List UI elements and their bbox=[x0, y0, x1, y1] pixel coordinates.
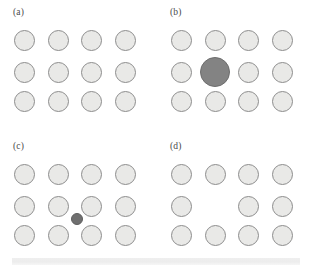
host-atom bbox=[238, 62, 259, 83]
panel-c: (c) bbox=[0, 134, 157, 268]
host-atom bbox=[115, 196, 136, 217]
host-atom bbox=[272, 30, 293, 51]
panel-a: (a) bbox=[0, 0, 157, 134]
host-atom bbox=[48, 225, 69, 246]
host-atom bbox=[14, 225, 35, 246]
host-atom bbox=[205, 164, 226, 185]
panel-d-label: (d) bbox=[170, 142, 182, 152]
host-atom bbox=[272, 91, 293, 112]
host-atom bbox=[205, 30, 226, 51]
host-atom bbox=[115, 164, 136, 185]
host-atom bbox=[14, 91, 35, 112]
panel-d: (d) bbox=[157, 134, 314, 268]
host-atom bbox=[81, 91, 102, 112]
panel-b: (b) bbox=[157, 0, 314, 134]
host-atom bbox=[81, 225, 102, 246]
host-atom bbox=[81, 196, 102, 217]
host-atom bbox=[115, 30, 136, 51]
host-atom bbox=[238, 164, 259, 185]
host-atom bbox=[171, 196, 192, 217]
host-atom bbox=[238, 30, 259, 51]
host-atom bbox=[171, 164, 192, 185]
host-atom bbox=[115, 91, 136, 112]
footer-band bbox=[12, 258, 300, 265]
host-atom bbox=[238, 196, 259, 217]
host-atom bbox=[48, 196, 69, 217]
host-atom bbox=[171, 62, 192, 83]
defect-figure: (a) (b) (c) (d) bbox=[0, 0, 314, 268]
host-atom bbox=[115, 62, 136, 83]
interstitial-atom bbox=[71, 213, 83, 225]
host-atom bbox=[81, 62, 102, 83]
host-atom bbox=[81, 164, 102, 185]
host-atom bbox=[14, 164, 35, 185]
host-atom bbox=[171, 30, 192, 51]
host-atom bbox=[48, 164, 69, 185]
host-atom bbox=[48, 30, 69, 51]
host-atom bbox=[205, 91, 226, 112]
host-atom bbox=[272, 196, 293, 217]
host-atom bbox=[272, 164, 293, 185]
host-atom bbox=[14, 196, 35, 217]
host-atom bbox=[14, 62, 35, 83]
host-atom bbox=[272, 225, 293, 246]
panel-b-label: (b) bbox=[170, 8, 182, 18]
panel-c-label: (c) bbox=[13, 142, 24, 152]
host-atom bbox=[238, 225, 259, 246]
host-atom bbox=[272, 62, 293, 83]
host-atom bbox=[14, 30, 35, 51]
host-atom bbox=[48, 91, 69, 112]
host-atom bbox=[171, 91, 192, 112]
host-atom bbox=[171, 225, 192, 246]
host-atom bbox=[48, 62, 69, 83]
substitutional-atom bbox=[200, 57, 230, 87]
host-atom bbox=[115, 225, 136, 246]
host-atom bbox=[81, 30, 102, 51]
panel-a-label: (a) bbox=[13, 8, 24, 18]
host-atom bbox=[205, 225, 226, 246]
host-atom bbox=[238, 91, 259, 112]
